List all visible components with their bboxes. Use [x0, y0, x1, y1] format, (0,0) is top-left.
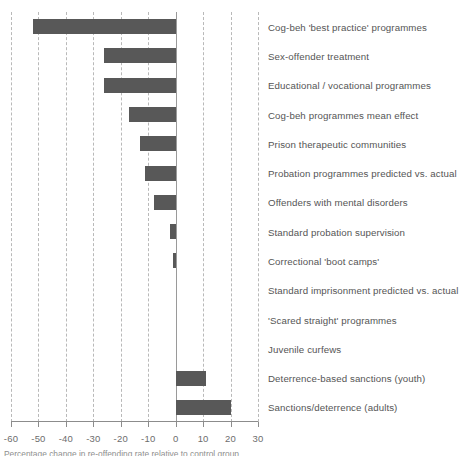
- bar-row: [11, 12, 258, 41]
- x-tick--30: [93, 422, 94, 427]
- category-label: Offenders with mental disorders: [268, 197, 408, 208]
- category-label: Sanctions/deterrence (adults): [268, 402, 397, 413]
- bar: [129, 107, 176, 122]
- x-tick--40: [66, 422, 67, 427]
- chart-caption: Percentage change in re-offending rate r…: [4, 449, 454, 456]
- x-tick--20: [121, 422, 122, 427]
- bar-row: [11, 276, 258, 305]
- category-label: Sex-offender treatment: [268, 50, 369, 61]
- x-tick--50: [38, 422, 39, 427]
- category-label: Correctional 'boot camps': [268, 255, 379, 266]
- category-label: 'Scared straight' programmes: [268, 314, 397, 325]
- category-label: Juvenile curfews: [268, 343, 341, 354]
- bar-row: [11, 305, 258, 334]
- x-tick--60: [11, 422, 12, 427]
- x-tick-label: 10: [198, 433, 209, 444]
- x-tick-label: 20: [225, 433, 236, 444]
- category-label: Probation programmes predicted vs. actua…: [268, 168, 457, 179]
- gridline-30: [258, 12, 259, 422]
- bar: [173, 253, 176, 268]
- bar: [33, 19, 176, 34]
- bar: [104, 48, 175, 63]
- x-tick-0: [176, 422, 177, 427]
- bar-row: [11, 158, 258, 187]
- bar: [154, 195, 176, 210]
- bar: [145, 166, 175, 181]
- category-label: Cog-beh 'best practice' programmes: [268, 21, 427, 32]
- x-tick-label: -60: [4, 433, 18, 444]
- x-tick-30: [258, 422, 259, 427]
- x-tick-label: -20: [114, 433, 128, 444]
- bar-row: [11, 41, 258, 70]
- bar-row: [11, 363, 258, 392]
- x-tick-10: [203, 422, 204, 427]
- category-label: Cog-beh programmes mean effect: [268, 109, 418, 120]
- bar: [104, 78, 175, 93]
- x-tick-label: -30: [86, 433, 100, 444]
- x-tick-20: [231, 422, 232, 427]
- x-tick-label: 0: [173, 433, 178, 444]
- plot-area: -60-50-40-30-20-100102030: [11, 12, 258, 422]
- bar-row: [11, 188, 258, 217]
- x-tick-label: 30: [253, 433, 264, 444]
- bar: [176, 400, 231, 415]
- x-tick--10: [148, 422, 149, 427]
- category-labels: Cog-beh 'best practice' programmesSex-of…: [268, 12, 458, 422]
- bar-row: [11, 71, 258, 100]
- bar-row: [11, 217, 258, 246]
- bar-row: [11, 246, 258, 275]
- bar-row: [11, 100, 258, 129]
- bar-row: [11, 129, 258, 158]
- x-tick-label: -40: [59, 433, 73, 444]
- bar: [140, 136, 176, 151]
- x-axis-line: [11, 421, 258, 422]
- bar-row: [11, 393, 258, 422]
- x-tick-label: -50: [31, 433, 45, 444]
- category-label: Prison therapeutic communities: [268, 138, 406, 149]
- category-label: Standard imprisonment predicted vs. actu…: [268, 285, 459, 296]
- bar: [176, 371, 206, 386]
- category-label: Deterrence-based sanctions (youth): [268, 373, 425, 384]
- bar-row: [11, 334, 258, 363]
- category-label: Standard probation supervision: [268, 226, 405, 237]
- category-label: Educational / vocational programmes: [268, 80, 431, 91]
- bar: [170, 224, 175, 239]
- x-tick-label: -10: [141, 433, 155, 444]
